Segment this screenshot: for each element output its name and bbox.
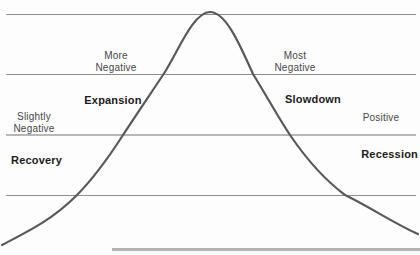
bell-curve-path: [2, 12, 418, 245]
phase-label-recession: Recession: [328, 148, 418, 160]
most-negative-label: Most Negative: [264, 50, 326, 74]
slightly-negative-label: Slightly Negative: [7, 111, 61, 135]
phase-label-slowdown: Slowdown: [272, 93, 354, 105]
economic-cycle-diagram: More Negative Most Negative Slightly Neg…: [0, 0, 420, 255]
phase-label-recovery: Recovery: [11, 154, 101, 166]
bell-curve: [0, 0, 420, 255]
phase-label-expansion: Expansion: [72, 94, 154, 106]
more-negative-label: More Negative: [85, 50, 147, 74]
positive-label: Positive: [350, 112, 412, 124]
